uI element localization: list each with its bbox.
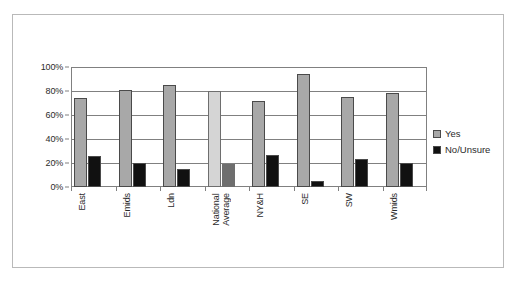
y-axis: 100%80%60%40%20%0%	[25, 67, 69, 187]
chart-legend: YesNo/Unsure	[433, 128, 513, 160]
chart-screenshot: 100%80%60%40%20%0% EastEmidsLdnNational …	[0, 0, 515, 281]
bar-group	[71, 67, 116, 187]
x-axis-tick-mark	[338, 187, 339, 191]
bar-yes	[252, 101, 265, 187]
x-axis-label: East	[77, 193, 87, 211]
bar-no-unsure	[177, 169, 190, 187]
x-axis-tick-mark	[71, 187, 72, 191]
bar-no-unsure	[400, 163, 413, 187]
bar-yes	[208, 91, 221, 187]
legend-swatch-icon	[433, 146, 441, 154]
x-axis-tick-mark	[249, 187, 250, 191]
y-axis-tick-mark	[65, 67, 69, 68]
bar-group	[160, 67, 205, 187]
x-axis-tick-mark	[160, 187, 161, 191]
x-axis-tick-mark	[294, 187, 295, 191]
x-axis-label: National Average	[211, 193, 231, 226]
x-axis-ticks	[71, 187, 427, 192]
x-axis-label: Ldn	[166, 193, 176, 208]
bar-group	[249, 67, 294, 187]
y-axis-tick-mark	[65, 187, 69, 188]
x-axis-label: Emids	[122, 193, 132, 218]
bar-group	[338, 67, 383, 187]
legend-label: Yes	[445, 128, 461, 139]
bar-no-unsure	[133, 163, 146, 187]
x-axis-label: SE	[300, 193, 310, 205]
bar-group	[205, 67, 250, 187]
legend-item: Yes	[433, 128, 513, 139]
x-axis-label: Wmids	[389, 193, 399, 220]
y-axis-tick-label: 0%	[50, 182, 63, 192]
chart-frame: 100%80%60%40%20%0% EastEmidsLdnNational …	[12, 14, 504, 268]
legend-swatch-icon	[433, 130, 441, 138]
x-axis-labels: EastEmidsLdnNational AverageNY&HSESWWmid…	[71, 193, 427, 255]
x-axis-tick-mark	[426, 187, 427, 191]
bar-group	[116, 67, 161, 187]
x-axis-tick-mark	[116, 187, 117, 191]
x-axis-tick-mark	[205, 187, 206, 191]
x-axis-label: SW	[344, 193, 354, 207]
y-axis-tick-label: 20%	[46, 158, 63, 168]
y-axis-tick-mark	[65, 115, 69, 116]
bars-layer	[71, 67, 427, 187]
y-axis-tick-label: 60%	[46, 110, 63, 120]
bar-no-unsure	[222, 164, 235, 187]
y-axis-tick-label: 100%	[41, 62, 63, 72]
x-axis-label: NY&H	[255, 193, 265, 218]
y-axis-tick-mark	[65, 91, 69, 92]
y-axis-tick-mark	[65, 163, 69, 164]
y-axis-tick-label: 40%	[46, 134, 63, 144]
bar-yes	[386, 93, 399, 187]
bar-group	[294, 67, 339, 187]
bar-yes	[163, 85, 176, 187]
bar-yes	[74, 98, 87, 187]
bar-yes	[119, 90, 132, 187]
bar-no-unsure	[88, 156, 101, 187]
legend-item: No/Unsure	[433, 144, 513, 155]
y-axis-tick-mark	[65, 139, 69, 140]
x-axis-tick-mark	[383, 187, 384, 191]
bar-no-unsure	[266, 155, 279, 187]
y-axis-tick-label: 80%	[46, 86, 63, 96]
bar-group	[383, 67, 428, 187]
bar-yes	[341, 97, 354, 187]
legend-label: No/Unsure	[445, 144, 490, 155]
bar-yes	[297, 74, 310, 187]
bar-no-unsure	[355, 159, 368, 187]
